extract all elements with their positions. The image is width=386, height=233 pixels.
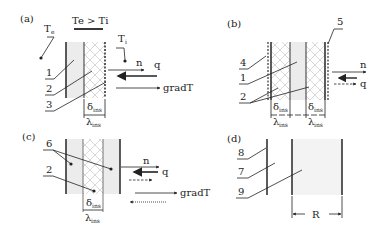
panel-a-tag: (a) <box>20 13 34 24</box>
label-2c: 2 <box>46 164 52 175</box>
label-6: 6 <box>46 138 52 149</box>
heat-flow-diagram: (a) Te > Ti T e T i 1 2 3 n q gradT δ in… <box>0 0 386 233</box>
panel-d: (d) 8 7 9 R <box>227 133 342 220</box>
n-label-c: n <box>143 155 150 166</box>
label-2b: 2 <box>240 91 246 102</box>
svg-text:ins: ins <box>92 202 101 209</box>
n-label-b: n <box>360 59 367 70</box>
panel-a: (a) Te > Ti T e T i 1 2 3 n q gradT δ in… <box>20 13 194 128</box>
ti-sub: i <box>125 38 127 45</box>
gradt-label: gradT <box>163 82 194 93</box>
leader-5 <box>328 29 343 44</box>
te-point <box>39 56 42 59</box>
panel-b-tag: (b) <box>227 18 241 29</box>
ti-point <box>123 59 126 62</box>
label-8: 8 <box>238 147 244 158</box>
q-label-b: q <box>360 78 367 89</box>
label-5: 5 <box>337 16 343 27</box>
panel-d-tag: (d) <box>227 133 241 144</box>
gradt-label-c: gradT <box>180 187 211 198</box>
te-sub: e <box>51 28 55 35</box>
panel-c: (c) 6 2 n q gradT δ ins λ ins <box>22 131 211 224</box>
label-1b: 1 <box>240 72 246 83</box>
insulation-layer <box>84 42 105 98</box>
label-4: 4 <box>240 57 246 68</box>
panel-b: (b) 5 4 1 2 n q δ ins δ ins λ ins λ <box>227 16 367 128</box>
svg-text:ins: ins <box>92 121 101 128</box>
r-label: R <box>312 209 320 220</box>
ti-leader <box>116 48 125 60</box>
svg-text:ins: ins <box>93 106 102 113</box>
ti-label: T <box>118 33 125 44</box>
label-1: 1 <box>46 67 52 78</box>
air-gap <box>292 139 342 195</box>
n-label: n <box>136 57 143 68</box>
label-2: 2 <box>46 83 52 94</box>
te-label: T <box>44 23 51 34</box>
te-leader <box>41 37 54 58</box>
label-9: 9 <box>238 186 244 197</box>
label-3: 3 <box>46 99 52 110</box>
svg-text:ins: ins <box>279 106 288 113</box>
panel-a-condition: Te > Ti <box>72 15 108 26</box>
svg-text:ins: ins <box>279 121 288 128</box>
panel-c-tag: (c) <box>22 131 36 142</box>
q-label-c: q <box>162 166 169 177</box>
svg-text:ins: ins <box>314 121 323 128</box>
svg-text:ins: ins <box>314 106 323 113</box>
layer-1 <box>66 42 84 98</box>
svg-text:ins: ins <box>91 217 100 224</box>
label-7: 7 <box>238 166 244 177</box>
q-label: q <box>154 59 161 70</box>
